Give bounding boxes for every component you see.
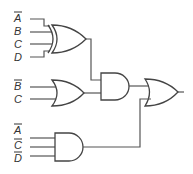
label-c-bar: C: [14, 139, 22, 151]
and-gate-bottom: [55, 133, 83, 161]
or-gate-middle: B C: [14, 80, 84, 106]
wire-d: [30, 51, 50, 57]
label-d: D: [14, 51, 22, 63]
label-d-bar: D: [14, 152, 22, 164]
label-c: C: [14, 38, 22, 50]
and-gate-middle: [101, 73, 129, 100]
xor-gate: A B C D: [13, 12, 86, 63]
or-body: [52, 80, 84, 106]
xor-back-curve: [48, 25, 53, 53]
label-c: C: [14, 93, 22, 105]
wire-xor-to-and: [86, 39, 101, 80]
and-gate-bottom-group: A C D: [13, 124, 83, 164]
logic-circuit-diagram: A B C D B C A C D: [0, 0, 193, 174]
wire-and2-to-or: [83, 99, 151, 147]
xor-body: [52, 25, 86, 53]
label-b-bar: B: [14, 80, 21, 92]
label-b: B: [14, 25, 21, 37]
label-a-bar: A: [13, 12, 21, 24]
label-a-bar: A: [13, 124, 21, 136]
or-gate-final: [145, 79, 178, 106]
wire-a-bar: [30, 19, 50, 26]
